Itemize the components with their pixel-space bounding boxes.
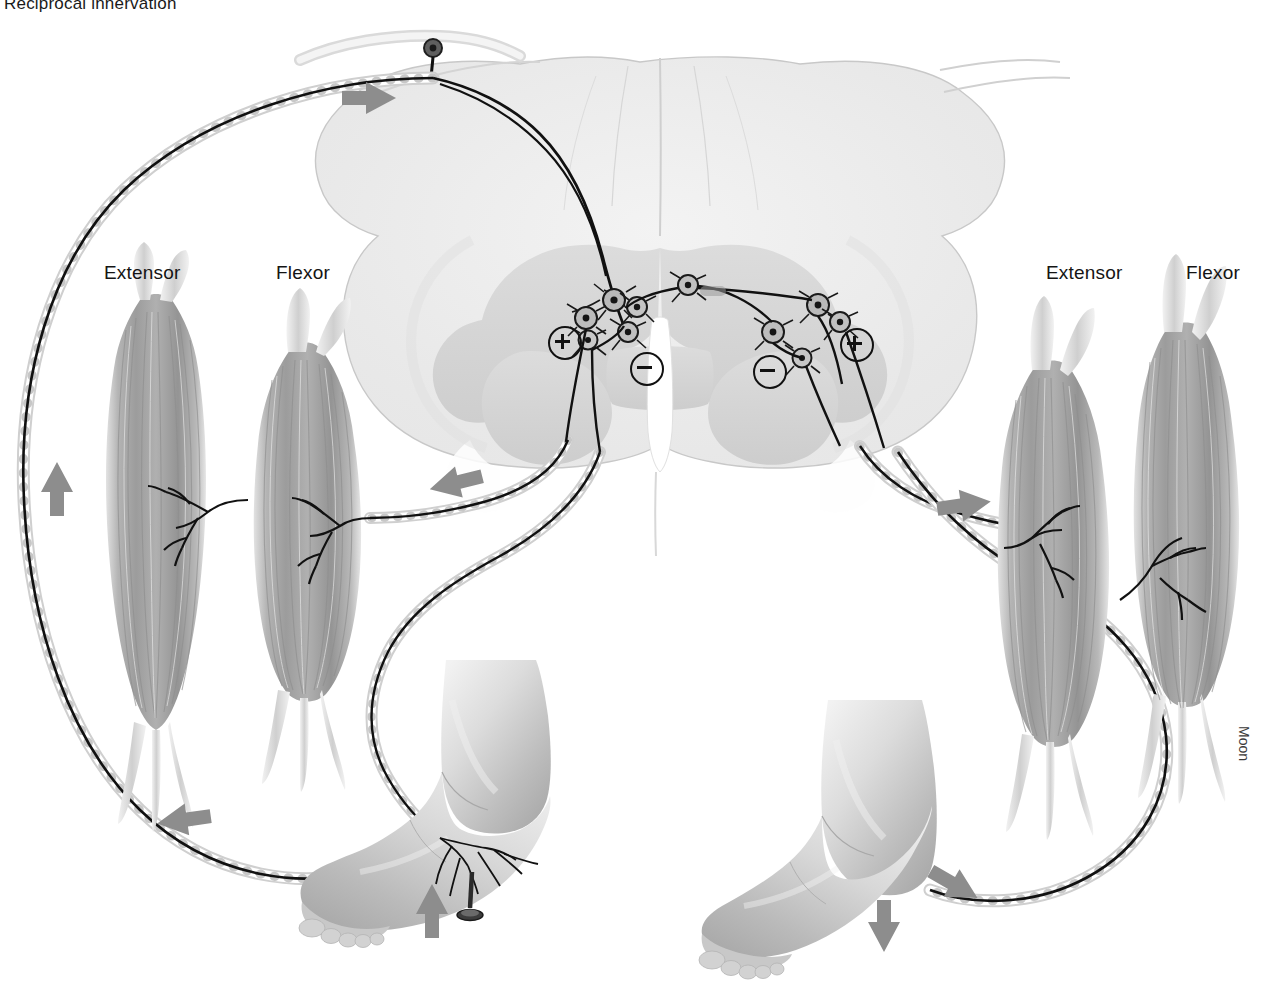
synapse-inhibitory-right	[753, 355, 787, 389]
arrow-right-foot-extension	[868, 900, 900, 952]
illustration-canvas: Reciprocal innervation	[0, 0, 1277, 996]
arrow-afferent-ascending	[41, 462, 73, 516]
label-right-extensor: Extensor	[1046, 262, 1123, 284]
artist-signature: Moon	[1236, 726, 1252, 761]
label-right-flexor: Flexor	[1186, 262, 1240, 284]
muscle-right-flexor	[1120, 254, 1239, 804]
spinal-cord-cross-section	[316, 57, 1070, 556]
right-foot-extended	[699, 700, 937, 979]
synapse-inhibitory-left	[630, 352, 664, 386]
muscle-right-extensor	[998, 296, 1109, 840]
illustration-graphics	[0, 0, 1277, 996]
label-left-flexor: Flexor	[276, 262, 330, 284]
label-left-extensor: Extensor	[104, 262, 181, 284]
synapse-excitatory-right	[840, 328, 874, 362]
synapse-excitatory-left	[548, 326, 582, 360]
muscle-left-extensor	[106, 242, 248, 832]
